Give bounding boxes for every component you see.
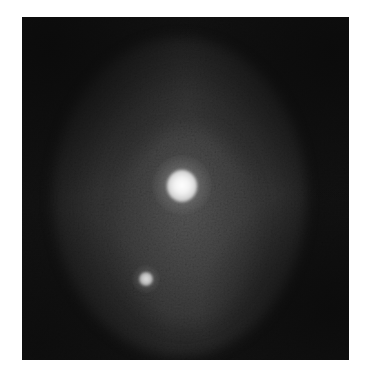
page — [0, 0, 373, 385]
corner-vignette — [22, 17, 349, 360]
grayscale-image — [22, 17, 349, 360]
